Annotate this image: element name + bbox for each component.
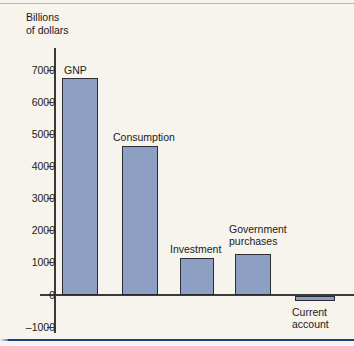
- y-tick-mark-1000: [47, 262, 55, 263]
- bar-investment[interactable]: [180, 258, 214, 295]
- bar-label-investment: Investment: [170, 243, 221, 255]
- y-tick-mark-4000: [47, 166, 55, 167]
- bar-chart-plot: Billions of dollars 7000 6000 5000 4000 …: [0, 0, 354, 346]
- bottom-accent-rule: [8, 339, 354, 341]
- y-tick-6000: 6000: [0, 102, 55, 103]
- y-tick-mark-6000: [47, 102, 55, 103]
- bar-label-consumption: Consumption: [113, 131, 175, 143]
- y-tick-7000: 7000: [0, 70, 55, 71]
- y-tick-3000: 3000: [0, 198, 55, 199]
- bar-consumption[interactable]: [122, 146, 158, 295]
- bar-gnp[interactable]: [62, 78, 98, 295]
- y-tick-mark-3000: [47, 198, 55, 199]
- y-tick-5000: 5000: [0, 134, 55, 135]
- y-tick-neg1000: –1000: [0, 327, 55, 328]
- bar-label-gnp: GNP: [64, 64, 87, 76]
- bar-government-purchases[interactable]: [235, 254, 271, 295]
- y-tick-2000: 2000: [0, 230, 55, 231]
- y-tick-0: 0: [0, 295, 55, 296]
- y-tick-label-0: 0: [11, 289, 55, 301]
- y-tick-4000: 4000: [0, 166, 55, 167]
- y-axis-title: Billions of dollars: [26, 11, 69, 36]
- bar-label-current-account: Current account: [292, 306, 329, 330]
- bar-label-government-purchases: Government purchases: [229, 223, 287, 247]
- y-tick-mark-2000: [47, 230, 55, 231]
- figure-canvas: Billions of dollars 7000 6000 5000 4000 …: [0, 0, 354, 346]
- bar-current-account[interactable]: [295, 296, 335, 301]
- y-tick-mark-5000: [47, 134, 55, 135]
- y-tick-mark-neg1000: [47, 327, 55, 328]
- y-tick-1000: 1000: [0, 262, 55, 263]
- y-tick-mark-7000: [47, 70, 55, 71]
